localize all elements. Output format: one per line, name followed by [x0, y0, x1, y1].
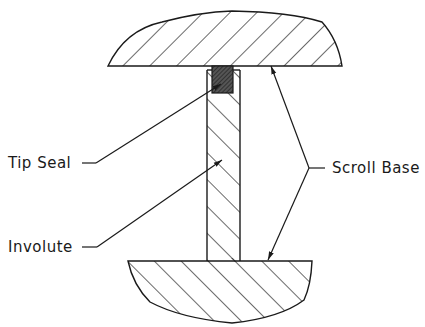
bottom-scroll-base	[128, 258, 312, 323]
scroll-base-label: Scroll Base	[332, 159, 420, 177]
involute-label: Involute	[8, 238, 73, 256]
scroll-base-leader	[268, 66, 325, 260]
top-scroll-base	[108, 11, 342, 66]
tip-seal	[212, 66, 233, 93]
tip-seal-label: Tip Seal	[8, 154, 71, 172]
involute-wrap	[207, 70, 240, 261]
tip-seal-leader	[82, 84, 221, 163]
involute-leader	[82, 160, 222, 247]
